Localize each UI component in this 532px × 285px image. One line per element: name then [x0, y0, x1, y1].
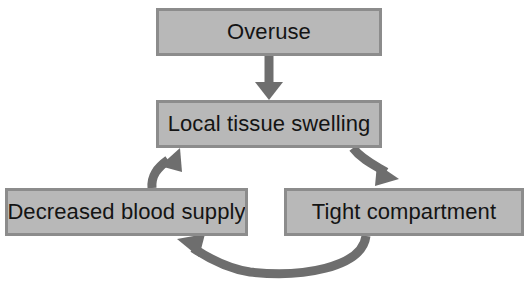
node-local-tissue-swelling: Local tissue swelling: [156, 100, 382, 148]
node-decreased-blood-supply-label: Decreased blood supply: [7, 201, 245, 223]
arrow-overuse-to-local-tissue-swelling: [255, 56, 283, 100]
node-overuse-label: Overuse: [227, 21, 311, 43]
arrow-local-tissue-swelling-to-tight-compartment: [353, 148, 399, 186]
node-decreased-blood-supply: Decreased blood supply: [5, 188, 248, 236]
node-overuse: Overuse: [156, 8, 382, 56]
node-tight-compartment: Tight compartment: [284, 188, 524, 236]
arrow-tight-compartment-to-decreased-blood-supply: [177, 234, 366, 274]
arrow-decreased-blood-supply-to-local-tissue-swelling: [152, 148, 182, 188]
diagram-canvas: Overuse Local tissue swelling Decreased …: [0, 0, 532, 285]
node-tight-compartment-label: Tight compartment: [312, 201, 496, 223]
node-local-tissue-swelling-label: Local tissue swelling: [168, 113, 371, 135]
